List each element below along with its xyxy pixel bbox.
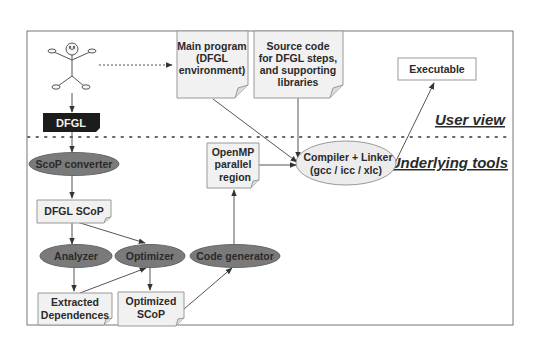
node-main-program: Main program (DFGL environment) [177, 31, 248, 98]
node-executable: Executable [398, 58, 476, 80]
scop-converter-label: ScoP converter [36, 158, 113, 170]
openmp-line-3: region [219, 171, 251, 183]
executable-label: Executable [409, 63, 465, 75]
extracted-dependences-line-1: Extracted [51, 296, 99, 308]
code-generator-label: Code generator [196, 250, 274, 262]
analyzer-label: Analyzer [54, 250, 98, 262]
dfgl-scop-label: DFGL SCoP [44, 205, 103, 217]
underlying-tools-label: Underlying tools [390, 154, 508, 171]
optimized-scop-line-1: Optimized [126, 295, 177, 307]
source-code-line-1: Source code [266, 40, 329, 52]
main-program-line-3: environment) [179, 64, 246, 76]
source-code-line-2: for DFGL steps, [259, 52, 338, 64]
node-extracted-dependences: Extracted Dependences [38, 293, 112, 325]
compiler-line-1: Compiler + Linker [304, 151, 393, 163]
node-scop-converter: ScoP converter [29, 153, 119, 176]
diagram-canvas: User view Underlying tools DFGL [0, 0, 537, 342]
optimizer-label: Optimizer [126, 250, 174, 262]
node-dfgl: DFGL [43, 113, 100, 132]
compiler-line-2: (gcc / icc / xlc) [310, 164, 382, 176]
openmp-line-1: OpenMP [212, 146, 255, 158]
source-code-line-3: and supporting [260, 64, 336, 76]
node-source-code: Source code for DFGL steps, and supporti… [254, 31, 343, 98]
user-view-label: User view [435, 111, 506, 128]
node-optimizer: Optimizer [115, 245, 185, 268]
source-code-line-4: libraries [278, 76, 319, 88]
openmp-line-2: parallel [215, 158, 252, 170]
main-program-line-2: (DFGL [196, 52, 229, 64]
node-code-generator: Code generator [190, 245, 280, 268]
node-optimized-scop: Optimized SCoP [118, 292, 184, 326]
node-analyzer: Analyzer [40, 245, 112, 268]
optimized-scop-line-2: SCoP [137, 308, 165, 320]
node-openmp: OpenMP parallel region [207, 143, 259, 188]
dfgl-label: DFGL [56, 117, 86, 129]
node-dfgl-scop: DFGL SCoP [37, 200, 111, 223]
extracted-dependences-line-2: Dependences [41, 309, 109, 321]
main-program-line-1: Main program [177, 40, 246, 52]
node-compiler: Compiler + Linker (gcc / icc / xlc) [296, 141, 396, 185]
